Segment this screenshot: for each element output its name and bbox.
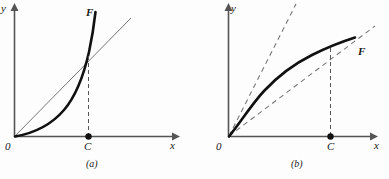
panel-b-graphic [194,0,389,179]
x-axis-label-b: x [374,140,379,151]
y-axis-label-a: y [1,3,6,14]
curve-label-f-a: F [86,7,93,18]
curve-F-a [15,12,96,137]
panel-caption-a: (a) [86,159,98,169]
point-marker-c-b [327,133,333,139]
x-axis-label-a: x [170,140,175,151]
point-label-c-b: C [327,141,334,152]
y-axis-arrowhead-a [11,3,19,11]
panel-a-graphic [0,0,195,179]
curve-F-b [229,38,355,137]
dashed-chord-line-b [229,26,375,136]
origin-label-b: 0 [216,141,222,152]
chord-line-a [15,18,131,136]
point-marker-c-a [85,133,91,139]
figure-container: y x F C 0 (a) y x F C [0,0,389,179]
panel-caption-b: (b) [291,159,303,169]
panel-b: y x F C 0 (b) [194,0,389,179]
y-axis-label-b: y [231,3,236,14]
curve-label-f-b: F [358,46,365,57]
panel-a: y x F C 0 (a) [0,0,195,179]
origin-label-a: 0 [5,141,11,152]
point-label-c-a: C [84,141,91,152]
